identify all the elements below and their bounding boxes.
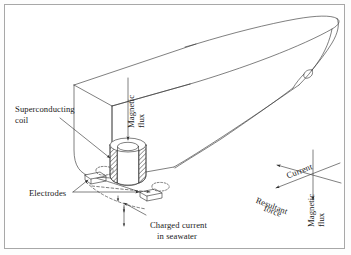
label-charged-current-line2: in seawater: [157, 231, 197, 241]
label-electrodes: Electrodes: [29, 188, 66, 198]
label-triad-magnetic-flux-line1: Magnetic: [306, 194, 316, 227]
label-charged-current-line1: Charged current: [150, 220, 207, 230]
label-superconducting-coil-line1: Superconducting: [15, 104, 75, 114]
electrode-left: [85, 166, 113, 184]
label-magnetic-flux-hull-line1: Magnetic: [126, 95, 136, 128]
label-magnetic-flux-hull-line2: flux: [136, 114, 146, 128]
label-triad-magnetic-flux-line2: flux: [316, 213, 326, 227]
leader-charged-current: [124, 203, 146, 215]
superconducting-coil: [110, 138, 146, 186]
diagram-canvas: [0, 0, 351, 255]
figure-container: Superconducting coil Magnetic flux Elect…: [0, 0, 351, 255]
charged-current-arrowheads: [118, 196, 124, 212]
leader-superconducting-coil: [60, 118, 110, 158]
charged-current-flow: [86, 182, 150, 209]
label-superconducting-coil-line2: coil: [15, 115, 28, 125]
